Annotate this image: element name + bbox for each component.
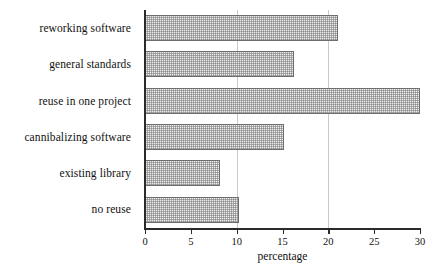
category-label-column: reworking software general standards reu… xyxy=(0,10,138,228)
caption-fragment xyxy=(150,266,330,274)
tick-label-20: 20 xyxy=(323,236,334,247)
tick-label-30: 30 xyxy=(415,236,426,247)
tick-label-15: 15 xyxy=(277,236,288,247)
category-label-slot: reuse in one project xyxy=(0,83,138,119)
bar-slot xyxy=(145,83,420,119)
category-label-slot: cannibalizing software xyxy=(0,119,138,155)
category-label-slot: no reuse xyxy=(0,192,138,228)
tick-mark-20 xyxy=(328,229,329,234)
tick-mark-30 xyxy=(420,229,421,234)
category-label-existing-library: existing library xyxy=(59,167,131,180)
bar-existing-library xyxy=(145,160,220,186)
category-label-general-standards: general standards xyxy=(49,58,131,71)
category-label-reuse-in-one-project: reuse in one project xyxy=(39,95,131,108)
tick-label-10: 10 xyxy=(231,236,242,247)
x-axis-title: percentage xyxy=(145,250,420,262)
bar-chart-figure: reworking software general standards reu… xyxy=(0,0,434,274)
tick-mark-15 xyxy=(283,229,284,234)
plot-area: 051015202530 xyxy=(145,10,420,228)
bar-slot xyxy=(145,46,420,82)
category-label-cannibalizing-software: cannibalizing software xyxy=(24,131,131,144)
bar-slot xyxy=(145,192,420,228)
tick-label-0: 0 xyxy=(142,236,147,247)
category-label-slot: existing library xyxy=(0,155,138,191)
bar-slot xyxy=(145,155,420,191)
bar-cannibalizing-software xyxy=(145,124,284,150)
category-label-reworking-software: reworking software xyxy=(39,22,131,35)
bar-slot xyxy=(145,10,420,46)
bar-reuse-in-one-project xyxy=(145,88,420,114)
bar-slot xyxy=(145,119,420,155)
tick-mark-10 xyxy=(237,229,238,234)
bar-reworking-software xyxy=(145,15,338,41)
bar-no-reuse xyxy=(145,197,239,223)
tick-mark-25 xyxy=(374,229,375,234)
category-label-no-reuse: no reuse xyxy=(92,203,131,216)
tick-label-5: 5 xyxy=(188,236,193,247)
category-label-slot: reworking software xyxy=(0,10,138,46)
tick-label-25: 25 xyxy=(369,236,380,247)
bar-general-standards xyxy=(145,51,294,77)
y-axis-line xyxy=(144,10,146,229)
tick-mark-0 xyxy=(145,229,146,234)
tick-mark-5 xyxy=(191,229,192,234)
category-label-slot: general standards xyxy=(0,46,138,82)
